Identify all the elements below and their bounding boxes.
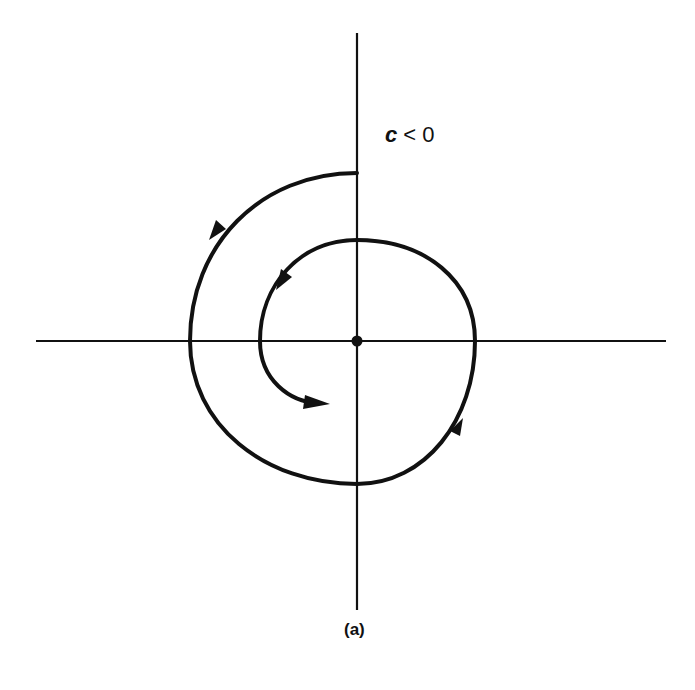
condition-variable: c — [385, 122, 397, 147]
arrow-head-end-icon — [303, 395, 330, 409]
equilibrium-point — [352, 336, 363, 347]
phase-portrait-diagram — [0, 0, 695, 690]
figure-caption: (a) — [344, 620, 365, 640]
condition-label: c < 0 — [385, 122, 435, 148]
spiral-trajectory — [190, 173, 475, 484]
condition-relation: < 0 — [397, 122, 434, 147]
